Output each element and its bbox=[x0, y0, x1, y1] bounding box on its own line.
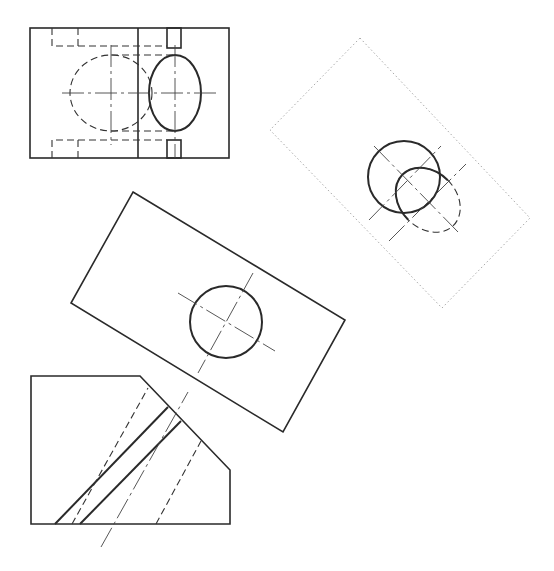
slot-edge-1 bbox=[55, 407, 168, 524]
plate-outline bbox=[71, 192, 345, 432]
aux-center-line-b bbox=[369, 146, 441, 220]
slot-edge-2 bbox=[80, 421, 181, 524]
side-view-outline bbox=[31, 376, 230, 524]
hidden-bottom-pocket bbox=[52, 140, 167, 158]
front-view bbox=[30, 28, 229, 158]
plate-hole-center-line-horizontal bbox=[178, 293, 275, 351]
side-view-chamfered bbox=[31, 376, 230, 547]
hidden-edge-2 bbox=[156, 441, 201, 524]
plate-hole-circle bbox=[190, 286, 262, 358]
top-slot bbox=[167, 28, 181, 48]
bottom-slot bbox=[167, 140, 181, 158]
auxiliary-view-plate bbox=[71, 192, 345, 432]
hidden-top-pocket bbox=[52, 28, 167, 46]
auxiliary-view-dotted bbox=[270, 38, 530, 308]
hidden-edge-1 bbox=[72, 388, 148, 524]
technical-drawing-canvas bbox=[0, 0, 554, 571]
aux-center-line-a bbox=[374, 146, 458, 232]
